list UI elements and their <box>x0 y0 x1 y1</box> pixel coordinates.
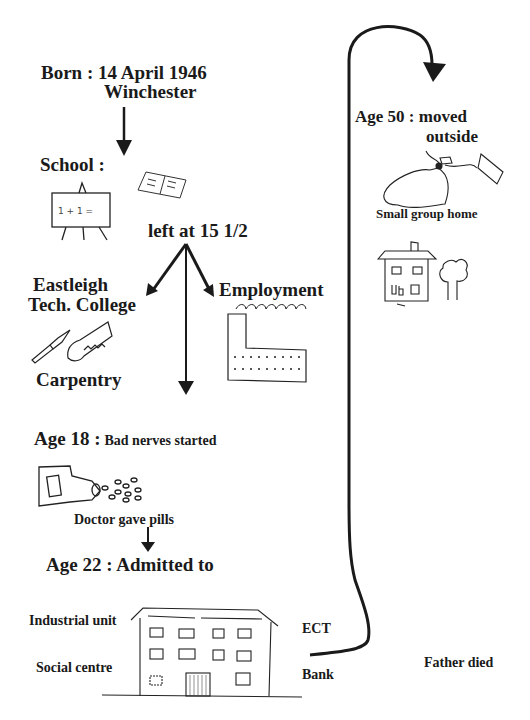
college-name-line1: Eastleigh <box>33 275 108 294</box>
arrow-born-to-school <box>116 107 132 156</box>
blackboard-icon: 1 + 1 = <box>52 183 110 240</box>
house-with-tree-icon <box>378 242 467 306</box>
social-centre-label: Social centre <box>36 661 112 675</box>
age50-line2: outside <box>426 128 478 145</box>
left-school-label: left at 15 1/2 <box>148 221 248 240</box>
college-name-line2: Tech. College <box>28 295 136 314</box>
age18-line: Age 18 : Bad nerves started <box>34 429 216 448</box>
birthplace: Winchester <box>104 82 197 101</box>
born-title: Born : 14 April 1946 <box>41 63 207 82</box>
age18-prefix: Age 18 : <box>34 428 100 449</box>
doctor-pills-label: Doctor gave pills <box>74 513 174 527</box>
small-group-home-label: Small group home <box>376 207 478 220</box>
father-died-label: Father died <box>424 656 493 670</box>
pill-bottle-icon <box>39 466 141 506</box>
book-icon <box>138 172 186 198</box>
age18-text: Bad nerves started <box>104 433 216 448</box>
ect-label: ECT <box>302 622 331 636</box>
carpentry-tools-icon <box>32 322 112 363</box>
carpentry-label: Carpentry <box>36 370 121 389</box>
area-map-icon <box>384 151 503 207</box>
age22-label: Age 22 : Admitted to <box>46 555 214 574</box>
employment-label: Employment <box>219 280 324 299</box>
svg-text:1 + 1 =: 1 + 1 = <box>58 206 93 216</box>
industrial-unit-label: Industrial unit <box>29 614 117 628</box>
hospital-building-icon <box>102 608 302 697</box>
arrow-pills-to-age22 <box>141 527 155 552</box>
arrows-left-school <box>146 244 214 395</box>
bank-label: Bank <box>302 668 334 682</box>
school-label: School : <box>40 155 105 174</box>
age50-line1: Age 50 : moved <box>355 108 467 125</box>
factory-icon <box>228 305 306 383</box>
